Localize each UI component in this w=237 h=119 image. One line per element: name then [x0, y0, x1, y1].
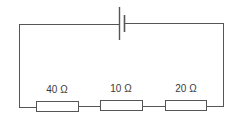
resistor-10-label: 10 Ω — [110, 83, 131, 94]
resistor-10-ohm — [101, 101, 143, 111]
resistor-40-label: 40 Ω — [46, 84, 67, 95]
resistor-40-ohm — [37, 102, 79, 112]
resistor-20-ohm — [166, 101, 207, 111]
resistor-20-label: 20 Ω — [175, 83, 196, 94]
circuit-diagram — [0, 0, 237, 119]
